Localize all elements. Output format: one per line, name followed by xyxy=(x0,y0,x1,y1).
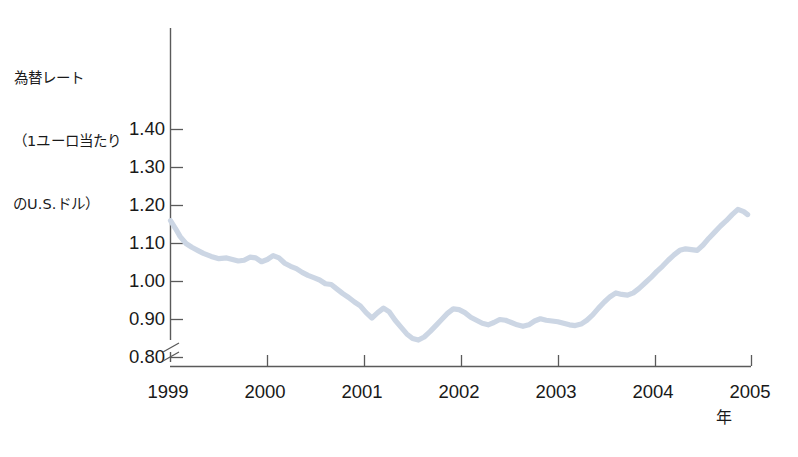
exchange-rate-line xyxy=(171,209,748,340)
data-series-group xyxy=(171,209,748,340)
axes-group xyxy=(163,28,752,367)
x-tick-marks xyxy=(268,355,752,366)
plot-area xyxy=(0,0,798,457)
y-tick-marks xyxy=(171,130,183,358)
chart-figure: 為替レート （1ユーロ当たり のU.S.ドル） 1.40 1.30 1.20 1… xyxy=(0,0,798,457)
